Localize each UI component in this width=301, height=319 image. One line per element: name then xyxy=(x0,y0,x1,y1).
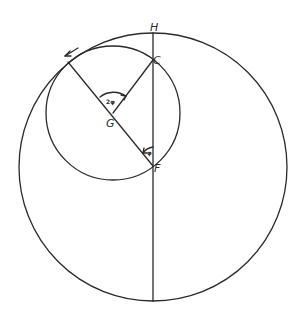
label-G: G xyxy=(106,117,115,130)
rotation-arrow-icon xyxy=(65,48,78,56)
line-G-to-C xyxy=(113,60,153,113)
label-H: H xyxy=(150,21,158,34)
label-F: F xyxy=(154,162,161,175)
label-angle-phi: φ xyxy=(147,149,152,157)
label-C: C xyxy=(153,54,161,67)
geometry-diagram: H C G F 2φ φ xyxy=(0,0,301,319)
label-angle-2phi: 2φ xyxy=(106,98,115,106)
